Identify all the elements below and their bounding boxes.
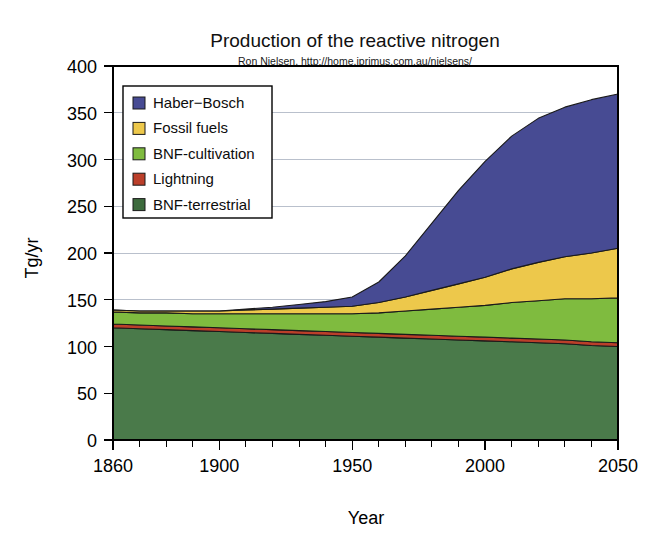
y-tick-label: 250 — [67, 197, 97, 217]
legend-swatch — [133, 97, 145, 109]
legend-label: Haber−Bosch — [153, 94, 244, 111]
legend-swatch — [133, 199, 145, 211]
area-series-bnf-terrestrial — [113, 328, 618, 440]
x-axis-title: Year — [348, 508, 384, 528]
x-tick-label: 1900 — [199, 456, 239, 476]
y-tick-label: 0 — [87, 431, 97, 451]
legend-label: BNF-cultivation — [153, 145, 255, 162]
legend-item: Lightning — [133, 170, 214, 187]
y-axis-title: Tg/yr — [22, 237, 42, 278]
legend-label: Lightning — [153, 170, 214, 187]
chart-legend: Haber−BoschFossil fuelsBNF-cultivationLi… — [123, 86, 272, 218]
chart-title: Production of the reactive nitrogen — [210, 30, 499, 51]
chart-figure: Production of the reactive nitrogen Ron … — [0, 0, 670, 544]
legend-swatch — [133, 173, 145, 185]
legend-swatch — [133, 148, 145, 160]
y-tick-label: 200 — [67, 244, 97, 264]
legend-label: Fossil fuels — [153, 119, 228, 136]
x-tick-label: 2000 — [465, 456, 505, 476]
y-tick-label: 150 — [67, 291, 97, 311]
y-tick-label: 300 — [67, 151, 97, 171]
y-tick-label: 400 — [67, 57, 97, 77]
x-tick-label: 1860 — [93, 456, 133, 476]
y-tick-label: 350 — [67, 104, 97, 124]
legend-label: BNF-terrestrial — [153, 196, 251, 213]
y-tick-label: 50 — [77, 384, 97, 404]
x-tick-label: 2050 — [598, 456, 638, 476]
y-tick-label: 100 — [67, 338, 97, 358]
legend-swatch — [133, 122, 145, 134]
x-tick-label: 1950 — [332, 456, 372, 476]
